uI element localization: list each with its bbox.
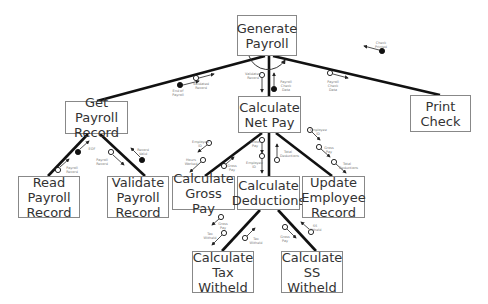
couple-label: Record Valid	[135, 148, 151, 156]
couple-label: SS Witheld	[307, 224, 323, 232]
connection-generate-print	[273, 56, 440, 95]
module-deduct: Calculate Deductions	[237, 176, 300, 210]
data-couple-icon	[108, 149, 113, 154]
couple-label: Total Deductions	[339, 162, 355, 170]
couple-label: Gross Pay	[215, 222, 231, 230]
data-couple-icon	[327, 70, 332, 75]
couple-arrow	[199, 74, 214, 78]
data-couple-icon	[259, 153, 264, 158]
couple-label: Payroll Check Data	[325, 80, 341, 92]
data-couple-icon	[55, 167, 60, 172]
couple-label: Employee ID	[310, 128, 326, 136]
couple-arrow	[333, 74, 348, 78]
module-update: Update Employee Record	[302, 176, 365, 218]
module-gross: Calculate Gross Pay	[172, 176, 235, 210]
couple-arrow	[247, 228, 255, 236]
control-flag-icon	[379, 48, 384, 53]
data-couple-icon	[193, 75, 198, 80]
couple-label: Total Deductions	[280, 150, 296, 158]
control-flag-icon	[177, 82, 182, 87]
couple-label: Gross Pay	[224, 164, 240, 172]
module-validate: Validate Payroll Record	[107, 176, 169, 218]
couple-label: Gross Pay	[247, 140, 263, 148]
module-netpay: Calculate Net Pay	[238, 96, 301, 133]
couple-label: Validated Record	[245, 72, 261, 80]
control-flag-icon	[271, 86, 276, 91]
data-couple-icon	[331, 159, 336, 164]
data-couple-icon	[274, 157, 279, 162]
couple-label: Payroll Record	[94, 158, 110, 166]
control-flag-icon	[139, 157, 144, 162]
couple-label: Hours Worked	[183, 158, 199, 166]
module-print: Print Check	[410, 95, 471, 132]
couple-label: Validated Record	[193, 82, 209, 90]
couple-label: Check Printed	[373, 41, 389, 49]
couple-label: Tax Witheld	[248, 237, 264, 245]
couple-label: Employee ID	[246, 161, 262, 169]
module-getrec: Get Payroll Record	[65, 101, 128, 134]
couple-label: Gross Pay	[277, 235, 293, 243]
data-couple-icon	[282, 224, 287, 229]
control-flag-icon	[75, 149, 80, 154]
couple-label: Employee ID	[192, 140, 208, 148]
couple-label: Payroll Check Data	[278, 80, 294, 92]
data-couple-icon	[242, 235, 247, 240]
module-tax: Calculate Tax Witheld	[192, 251, 254, 293]
module-generate: Generate Payroll	[237, 15, 297, 56]
module-ss: Calculate SS Witheld	[281, 251, 343, 293]
couple-label: Gross Pay	[321, 146, 337, 154]
couple-label: Payroll Record	[64, 166, 80, 174]
couple-label: End of Payroll	[170, 89, 186, 97]
data-couple-icon	[221, 230, 226, 235]
module-connections	[48, 56, 440, 251]
couple-label: EOF	[84, 147, 100, 151]
couple-label: Tax Witheld	[202, 232, 218, 240]
module-read: Read Payroll Record	[18, 176, 80, 218]
data-couple-icon	[200, 157, 205, 162]
